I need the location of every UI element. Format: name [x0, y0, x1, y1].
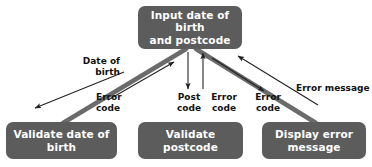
node-input-line1: Input date of birth	[142, 9, 238, 34]
edge-label-date-of-birth: Date of birth	[72, 56, 120, 78]
edge-label-error-message: Error message	[296, 83, 370, 94]
node-input-line2: and postcode	[142, 34, 238, 47]
node-input-date-of-birth-and-postcode[interactable]: Input date of birth and postcode	[138, 6, 242, 49]
node-display-error-line1: Display error	[275, 128, 353, 141]
data-flow-diagram: Input date of birth and postcode Validat…	[0, 0, 372, 167]
flow-error-code-out-arrow	[212, 58, 264, 91]
edge-label-error-code-left: Error code	[96, 92, 134, 114]
edge-label-error-code-right: Error code	[251, 92, 285, 114]
node-display-error-message[interactable]: Display error message	[262, 122, 366, 159]
edge-label-post-code: Post code	[173, 92, 205, 114]
node-validate-postcode-line2: postcode	[163, 141, 218, 154]
node-validate-dob-line2: birth	[13, 141, 109, 154]
node-display-error-line2: message	[275, 141, 353, 154]
node-validate-dob-line1: Validate date of	[13, 128, 109, 141]
node-validate-postcode-line1: Validate	[163, 128, 218, 141]
node-validate-date-of-birth[interactable]: Validate date of birth	[6, 122, 117, 159]
node-validate-postcode[interactable]: Validate postcode	[138, 122, 243, 159]
edge-label-error-code-center: Error code	[207, 92, 241, 114]
